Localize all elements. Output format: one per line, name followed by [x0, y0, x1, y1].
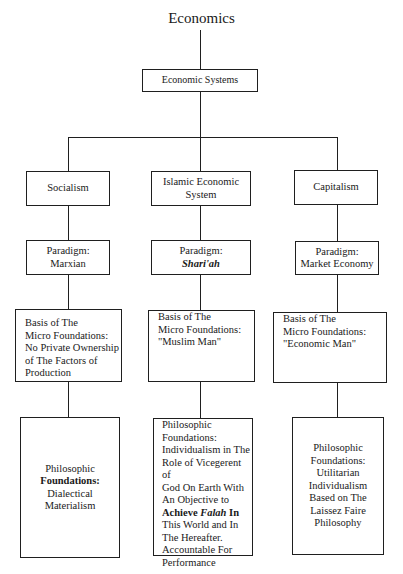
basis-line: Micro Foundations: — [25, 330, 108, 343]
connector-islamic-2 — [200, 206, 201, 240]
philosophy-line: Role of Vicegerent of — [162, 457, 252, 482]
philosophy-line: Philosophic — [162, 419, 212, 432]
falah-text: Falah — [200, 507, 226, 518]
paradigm-prefix: Paradigm: — [46, 245, 89, 258]
connector-horizontal — [68, 137, 338, 138]
paradigm-value: Marxian — [50, 258, 86, 271]
connector-socialism-4 — [68, 382, 69, 417]
philosophy-line: Dialectical — [47, 488, 92, 501]
philosophy-capitalism-box: Philosophic Foundations: Utilitarian Ind… — [292, 417, 384, 555]
connector-root-down — [200, 92, 201, 137]
economic-systems-label: Economic Systems — [162, 74, 238, 87]
basis-line: Basis of The — [283, 313, 336, 326]
paradigm-prefix: Paradigm: — [315, 246, 358, 259]
basis-line: "Muslim Man" — [158, 336, 221, 349]
paradigm-prefix: Paradigm: — [179, 245, 222, 258]
in-text: In — [229, 507, 239, 518]
paradigm-shariah-box: Paradigm: Shari'ah — [151, 240, 251, 275]
socialism-box: Socialism — [26, 171, 110, 206]
philosophy-socialism-box: Philosophic Foundations: Dialectical Mat… — [20, 417, 120, 558]
philosophy-line: Utilitarian — [316, 467, 359, 480]
philosophy-line: Philosophy — [314, 517, 361, 530]
philosophy-line: God On Earth With — [162, 482, 244, 495]
connector-socialism-1 — [68, 137, 69, 171]
philosophy-line: Accountable For — [162, 544, 232, 557]
basis-capitalism-box: Basis of The Micro Foundations: "Economi… — [273, 312, 387, 383]
islamic-system-label-line2: System — [186, 189, 217, 202]
philosophy-line: Individualism — [309, 480, 367, 493]
paradigm-marxian-box: Paradigm: Marxian — [26, 240, 110, 275]
connector-capitalism-4 — [337, 383, 338, 417]
capitalism-label: Capitalism — [313, 181, 359, 194]
connector-socialism-3 — [68, 275, 69, 309]
philosophy-line: An Objective to — [162, 494, 229, 507]
philosophy-line: Based on The — [309, 492, 367, 505]
connector-capitalism-3 — [337, 275, 338, 312]
philosophy-line: Foundations: — [162, 432, 217, 445]
capitalism-box: Capitalism — [294, 170, 378, 205]
philosophy-line: Individualism in The — [162, 444, 250, 457]
basis-line: Basis of The — [25, 317, 78, 330]
connector-capitalism-2 — [337, 205, 338, 241]
philosophy-line: Philosophic — [313, 442, 363, 455]
basis-line: of The Factors of — [25, 355, 97, 368]
basis-line: Micro Foundations: — [158, 324, 241, 337]
philosophy-line: Foundations: — [311, 455, 366, 468]
socialism-label: Socialism — [47, 182, 88, 195]
basis-socialism-box: Basis of The Micro Foundations: No Priva… — [15, 309, 122, 382]
basis-line: Basis of The — [158, 311, 211, 324]
basis-line: "Economic Man" — [283, 338, 356, 351]
philosophy-line: Laissez Faire — [310, 505, 366, 518]
philosophy-line: The Hereafter. — [162, 532, 223, 545]
basis-line: Micro Foundations: — [283, 326, 366, 339]
economic-systems-box: Economic Systems — [142, 69, 258, 92]
philosophy-line: Materialism — [45, 500, 96, 513]
philosophy-islamic-box: Philosophic Foundations: Individualism i… — [153, 418, 253, 556]
philosophy-line: Philosophic — [45, 463, 95, 476]
basis-line: Production — [25, 367, 71, 380]
connector-capitalism-1 — [337, 137, 338, 170]
paradigm-market-economy-box: Paradigm: Market Economy — [295, 241, 379, 275]
philosophy-line-falah: Achieve Falah In — [162, 507, 239, 520]
diagram-title: Economics — [0, 10, 403, 27]
basis-islamic-box: Basis of The Micro Foundations: "Muslim … — [148, 310, 255, 382]
basis-line: No Private Ownership — [25, 342, 119, 355]
connector-islamic-3 — [200, 275, 201, 310]
islamic-economic-system-box: Islamic Economic System — [151, 171, 251, 206]
achieve-text: Achieve — [162, 507, 198, 518]
connector-islamic-4 — [200, 382, 201, 418]
paradigm-value: Market Economy — [300, 258, 373, 271]
connector-islamic-1 — [200, 137, 201, 171]
connector-socialism-2 — [68, 206, 69, 240]
philosophy-line: Performance — [162, 557, 216, 570]
paradigm-value: Shari'ah — [182, 258, 220, 271]
philosophy-line: Foundations: — [40, 475, 100, 488]
islamic-system-label-line1: Islamic Economic — [163, 176, 239, 189]
connector-title-root — [200, 30, 201, 69]
philosophy-line: This World and In — [162, 519, 238, 532]
